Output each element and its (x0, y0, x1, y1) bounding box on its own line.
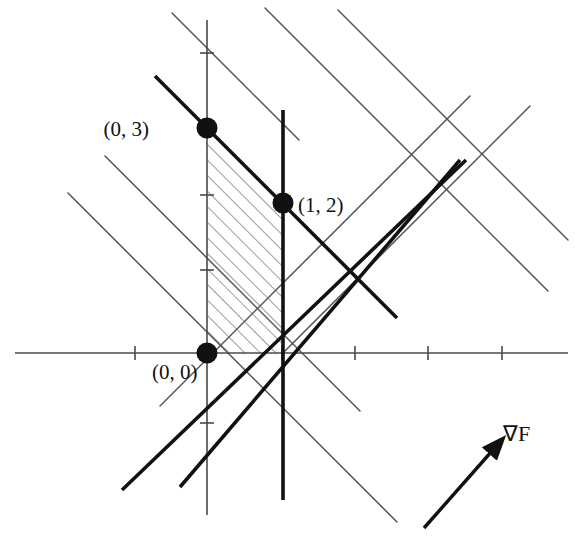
gradient-arrow (424, 451, 492, 528)
level-line-4 (265, 8, 548, 291)
vertex-1-2-dot (273, 193, 294, 214)
vertex-0-0-dot (197, 343, 218, 364)
constraint-line-3 (122, 160, 466, 490)
feasible-region-group (207, 128, 283, 353)
level-line-5 (338, 10, 568, 240)
vertex-0-3-label: (0, 3) (104, 117, 150, 141)
linear-programming-diagram: (0, 3)(1, 2)(0, 0)∇F (0, 0, 579, 551)
gradient-label: ∇F (502, 421, 530, 446)
figure-canvas: (0, 3)(1, 2)(0, 0)∇F (0, 0, 579, 551)
gradient-arrow-group (424, 451, 492, 528)
level-curves-group (68, 8, 568, 522)
rising-line-2 (283, 106, 530, 353)
constraint-lines-group (122, 76, 466, 500)
feasible-region-fill (207, 128, 283, 353)
axes-group (15, 20, 568, 515)
level-line-1 (172, 13, 299, 140)
point-labels-group: (0, 3)(1, 2)(0, 0)∇F (104, 117, 531, 446)
vertex-0-0-label: (0, 0) (152, 360, 198, 384)
vertex-0-3-dot (197, 118, 218, 139)
vertex-1-2-label: (1, 2) (298, 193, 344, 217)
